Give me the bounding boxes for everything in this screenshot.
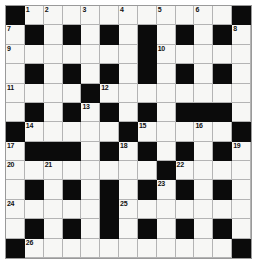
crossword-letter-cell[interactable] bbox=[194, 161, 213, 180]
crossword-letter-cell[interactable] bbox=[138, 200, 157, 219]
crossword-letter-cell[interactable]: 2 bbox=[44, 6, 63, 25]
crossword-letter-cell[interactable] bbox=[6, 180, 25, 199]
crossword-letter-cell[interactable] bbox=[100, 45, 119, 64]
crossword-letter-cell[interactable] bbox=[25, 161, 44, 180]
crossword-letter-cell[interactable] bbox=[100, 161, 119, 180]
crossword-letter-cell[interactable] bbox=[213, 45, 232, 64]
crossword-letter-cell[interactable] bbox=[213, 239, 232, 258]
crossword-letter-cell[interactable]: 10 bbox=[157, 45, 176, 64]
crossword-letter-cell[interactable] bbox=[232, 84, 251, 103]
crossword-letter-cell[interactable] bbox=[100, 6, 119, 25]
crossword-grid[interactable]: 1234567891011121314151617181920212223242… bbox=[6, 6, 251, 258]
crossword-letter-cell[interactable] bbox=[44, 219, 63, 238]
crossword-letter-cell[interactable]: 19 bbox=[232, 142, 251, 161]
crossword-letter-cell[interactable] bbox=[176, 200, 195, 219]
crossword-letter-cell[interactable] bbox=[25, 45, 44, 64]
crossword-letter-cell[interactable] bbox=[81, 25, 100, 44]
crossword-letter-cell[interactable] bbox=[44, 45, 63, 64]
crossword-letter-cell[interactable] bbox=[81, 200, 100, 219]
crossword-letter-cell[interactable] bbox=[157, 122, 176, 141]
crossword-letter-cell[interactable] bbox=[194, 45, 213, 64]
crossword-letter-cell[interactable] bbox=[81, 45, 100, 64]
crossword-letter-cell[interactable] bbox=[119, 103, 138, 122]
crossword-letter-cell[interactable]: 4 bbox=[119, 6, 138, 25]
crossword-letter-cell[interactable]: 16 bbox=[194, 122, 213, 141]
crossword-letter-cell[interactable]: 23 bbox=[157, 180, 176, 199]
crossword-letter-cell[interactable] bbox=[232, 200, 251, 219]
crossword-letter-cell[interactable]: 22 bbox=[176, 161, 195, 180]
crossword-letter-cell[interactable] bbox=[119, 219, 138, 238]
crossword-letter-cell[interactable] bbox=[157, 25, 176, 44]
crossword-letter-cell[interactable] bbox=[194, 64, 213, 83]
crossword-letter-cell[interactable]: 5 bbox=[157, 6, 176, 25]
crossword-letter-cell[interactable] bbox=[44, 64, 63, 83]
crossword-letter-cell[interactable] bbox=[100, 122, 119, 141]
crossword-letter-cell[interactable] bbox=[157, 239, 176, 258]
crossword-letter-cell[interactable] bbox=[232, 103, 251, 122]
crossword-letter-cell[interactable] bbox=[81, 142, 100, 161]
crossword-letter-cell[interactable] bbox=[157, 200, 176, 219]
crossword-letter-cell[interactable] bbox=[176, 122, 195, 141]
crossword-letter-cell[interactable]: 8 bbox=[232, 25, 251, 44]
crossword-letter-cell[interactable] bbox=[81, 180, 100, 199]
crossword-letter-cell[interactable] bbox=[25, 200, 44, 219]
crossword-letter-cell[interactable] bbox=[176, 239, 195, 258]
crossword-letter-cell[interactable]: 15 bbox=[138, 122, 157, 141]
crossword-letter-cell[interactable] bbox=[44, 103, 63, 122]
crossword-letter-cell[interactable] bbox=[119, 45, 138, 64]
crossword-letter-cell[interactable] bbox=[63, 122, 82, 141]
crossword-letter-cell[interactable]: 20 bbox=[6, 161, 25, 180]
crossword-letter-cell[interactable] bbox=[119, 239, 138, 258]
crossword-letter-cell[interactable] bbox=[194, 219, 213, 238]
crossword-letter-cell[interactable]: 13 bbox=[81, 103, 100, 122]
crossword-letter-cell[interactable]: 21 bbox=[44, 161, 63, 180]
crossword-letter-cell[interactable] bbox=[6, 64, 25, 83]
crossword-letter-cell[interactable] bbox=[119, 161, 138, 180]
crossword-letter-cell[interactable]: 11 bbox=[6, 84, 25, 103]
crossword-letter-cell[interactable]: 25 bbox=[119, 200, 138, 219]
crossword-letter-cell[interactable] bbox=[81, 64, 100, 83]
crossword-letter-cell[interactable] bbox=[6, 103, 25, 122]
crossword-letter-cell[interactable] bbox=[119, 84, 138, 103]
crossword-letter-cell[interactable] bbox=[81, 239, 100, 258]
crossword-letter-cell[interactable] bbox=[157, 84, 176, 103]
crossword-letter-cell[interactable] bbox=[176, 6, 195, 25]
crossword-letter-cell[interactable] bbox=[25, 84, 44, 103]
crossword-letter-cell[interactable] bbox=[213, 84, 232, 103]
crossword-letter-cell[interactable] bbox=[138, 84, 157, 103]
crossword-letter-cell[interactable] bbox=[44, 200, 63, 219]
crossword-letter-cell[interactable] bbox=[81, 161, 100, 180]
crossword-letter-cell[interactable] bbox=[213, 6, 232, 25]
crossword-letter-cell[interactable] bbox=[232, 219, 251, 238]
crossword-letter-cell[interactable] bbox=[176, 84, 195, 103]
crossword-letter-cell[interactable] bbox=[119, 180, 138, 199]
crossword-letter-cell[interactable] bbox=[63, 45, 82, 64]
crossword-letter-cell[interactable] bbox=[232, 45, 251, 64]
crossword-letter-cell[interactable] bbox=[63, 161, 82, 180]
crossword-letter-cell[interactable] bbox=[63, 200, 82, 219]
crossword-letter-cell[interactable]: 6 bbox=[194, 6, 213, 25]
crossword-letter-cell[interactable] bbox=[194, 180, 213, 199]
crossword-letter-cell[interactable]: 24 bbox=[6, 200, 25, 219]
crossword-letter-cell[interactable] bbox=[63, 6, 82, 25]
crossword-letter-cell[interactable] bbox=[119, 25, 138, 44]
crossword-letter-cell[interactable] bbox=[138, 6, 157, 25]
crossword-letter-cell[interactable] bbox=[138, 161, 157, 180]
crossword-letter-cell[interactable]: 9 bbox=[6, 45, 25, 64]
crossword-letter-cell[interactable] bbox=[213, 200, 232, 219]
crossword-letter-cell[interactable] bbox=[81, 219, 100, 238]
crossword-letter-cell[interactable] bbox=[232, 64, 251, 83]
crossword-letter-cell[interactable] bbox=[44, 25, 63, 44]
crossword-letter-cell[interactable] bbox=[81, 122, 100, 141]
crossword-letter-cell[interactable] bbox=[176, 45, 195, 64]
crossword-letter-cell[interactable] bbox=[194, 142, 213, 161]
crossword-letter-cell[interactable]: 1 bbox=[25, 6, 44, 25]
crossword-letter-cell[interactable]: 7 bbox=[6, 25, 25, 44]
crossword-letter-cell[interactable] bbox=[138, 239, 157, 258]
crossword-letter-cell[interactable] bbox=[44, 84, 63, 103]
crossword-letter-cell[interactable] bbox=[157, 142, 176, 161]
crossword-letter-cell[interactable] bbox=[63, 84, 82, 103]
crossword-letter-cell[interactable] bbox=[157, 103, 176, 122]
crossword-letter-cell[interactable] bbox=[63, 239, 82, 258]
crossword-letter-cell[interactable]: 12 bbox=[100, 84, 119, 103]
